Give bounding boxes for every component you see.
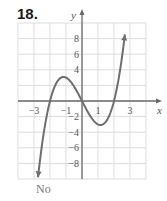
svg-text:−3: −3 (29, 105, 40, 116)
svg-text:−8: −8 (68, 158, 79, 169)
svg-text:3: 3 (128, 105, 133, 116)
svg-text:−4: −4 (68, 127, 79, 138)
svg-text:x: x (156, 104, 162, 116)
svg-text:8: 8 (74, 33, 79, 44)
axes (18, 9, 162, 179)
svg-text:1: 1 (96, 105, 101, 116)
svg-text:4: 4 (74, 64, 79, 75)
svg-text:y: y (70, 9, 76, 21)
svg-text:−2: −2 (68, 111, 79, 122)
svg-text:−6: −6 (68, 142, 79, 153)
answer-label: No (36, 182, 51, 197)
svg-text:6: 6 (74, 49, 79, 60)
cubic-graph: −3−113864−2−4−6−8xy (0, 0, 167, 201)
tick-labels: −3−113864−2−4−6−8xy (29, 9, 162, 169)
